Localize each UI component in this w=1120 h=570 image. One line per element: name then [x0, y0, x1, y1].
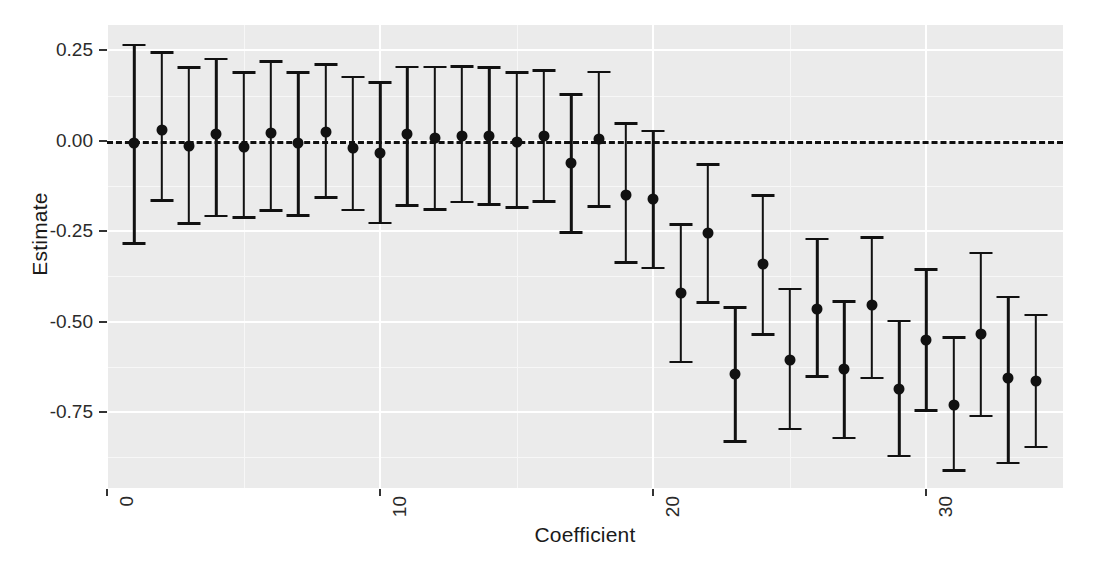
error-bar-cap-upper	[724, 306, 747, 309]
y-axis-tick-mark	[99, 230, 107, 232]
grid-minor-horizontal	[107, 186, 1063, 187]
estimate-point	[402, 129, 413, 140]
estimate-point	[921, 334, 932, 345]
error-bar-cap-lower	[451, 201, 474, 204]
y-axis-tick-label: 0.00	[56, 130, 93, 152]
x-axis-tick-label: 10	[389, 496, 411, 517]
grid-minor-horizontal	[107, 276, 1063, 277]
error-bar-cap-lower	[1024, 446, 1047, 449]
error-bar-cap-lower	[533, 200, 556, 203]
x-axis-tick-mark	[652, 489, 654, 496]
error-bar-cap-lower	[888, 455, 911, 458]
error-bar-cap-upper	[451, 65, 474, 68]
error-bar-cap-lower	[341, 209, 364, 212]
estimate-point	[347, 142, 358, 153]
error-bar-cap-upper	[669, 223, 692, 226]
estimate-point	[183, 141, 194, 152]
estimate-point	[730, 369, 741, 380]
error-bar-cap-lower	[287, 214, 310, 217]
error-bar-cap-upper	[970, 252, 993, 255]
estimate-point	[238, 141, 249, 152]
error-bar-cap-lower	[123, 242, 146, 245]
estimate-point	[675, 287, 686, 298]
error-bar-cap-lower	[205, 215, 228, 218]
error-bar-cap-lower	[614, 261, 637, 264]
error-bar-cap-lower	[396, 204, 419, 207]
estimate-point	[784, 354, 795, 365]
error-bar-cap-lower	[696, 301, 719, 304]
estimate-point	[156, 124, 167, 135]
grid-minor-horizontal	[107, 457, 1063, 458]
y-axis-title: Estimate	[28, 74, 52, 394]
error-bar-cap-lower	[259, 209, 282, 212]
error-bar-cap-upper	[205, 58, 228, 61]
estimate-point	[894, 383, 905, 394]
error-bar-cap-lower	[314, 196, 337, 199]
y-axis-tick-label: -0.75	[50, 401, 93, 423]
grid-major-vertical	[925, 25, 927, 488]
error-bar-cap-upper	[423, 66, 446, 69]
error-bar-cap-upper	[287, 71, 310, 74]
grid-major-horizontal	[107, 230, 1063, 232]
x-axis-tick-mark	[379, 489, 381, 496]
x-axis-tick-mark	[106, 489, 108, 496]
y-axis-tick-mark	[99, 49, 107, 51]
estimate-point	[539, 131, 550, 142]
estimate-point	[457, 131, 468, 142]
estimate-point	[1030, 376, 1041, 387]
error-bar-cap-upper	[751, 194, 774, 197]
estimate-point	[812, 303, 823, 314]
estimate-point	[866, 300, 877, 311]
error-bar-cap-upper	[1024, 314, 1047, 317]
x-axis-tick-mark	[925, 489, 927, 496]
error-bar-cap-upper	[478, 66, 501, 69]
error-bar-cap-lower	[669, 361, 692, 364]
error-bar-cap-lower	[778, 428, 801, 431]
estimate-point	[976, 329, 987, 340]
y-axis-tick-label: -0.50	[50, 311, 93, 333]
error-bar-cap-upper	[341, 76, 364, 79]
estimate-point	[129, 137, 140, 148]
error-bar-cap-lower	[369, 222, 392, 225]
estimate-point	[320, 127, 331, 138]
error-bar-cap-upper	[369, 81, 392, 84]
error-bar-cap-upper	[232, 71, 255, 74]
estimate-point	[293, 138, 304, 149]
error-bar-cap-lower	[177, 222, 200, 225]
error-bar-cap-upper	[614, 122, 637, 125]
error-bar-cap-upper	[505, 71, 528, 74]
estimate-point	[648, 193, 659, 204]
error-bar-cap-lower	[560, 231, 583, 234]
estimate-point	[484, 131, 495, 142]
error-bar-cap-upper	[259, 60, 282, 63]
error-bar-cap-lower	[724, 440, 747, 443]
error-bar-cap-upper	[696, 163, 719, 166]
y-axis-tick-mark	[99, 321, 107, 323]
error-bar-cap-upper	[806, 238, 829, 241]
estimate-point	[702, 227, 713, 238]
error-bar-cap-upper	[396, 66, 419, 69]
x-axis-title: Coefficient	[107, 523, 1063, 547]
y-axis-tick-label: 0.25	[56, 39, 93, 61]
plot-panel	[107, 25, 1063, 488]
grid-major-horizontal	[107, 49, 1063, 51]
estimate-point	[757, 258, 768, 269]
error-bar-cap-lower	[478, 203, 501, 206]
error-bar-cap-lower	[806, 375, 829, 378]
estimate-point	[948, 399, 959, 410]
error-bar-cap-upper	[314, 63, 337, 66]
error-bar-cap-lower	[423, 208, 446, 211]
x-axis-tick-label: 30	[935, 496, 957, 517]
error-bar-cap-upper	[533, 69, 556, 72]
estimate-point	[375, 147, 386, 158]
error-bar-cap-upper	[778, 288, 801, 291]
error-bar-cap-lower	[970, 415, 993, 418]
error-bar-cap-lower	[997, 462, 1020, 465]
error-bar-cap-lower	[833, 437, 856, 440]
error-bar-cap-lower	[505, 206, 528, 209]
error-bar-cap-upper	[150, 51, 173, 54]
estimate-point	[566, 158, 577, 169]
error-bar-cap-lower	[942, 469, 965, 472]
error-bar-cap-upper	[997, 296, 1020, 299]
estimate-point	[265, 127, 276, 138]
